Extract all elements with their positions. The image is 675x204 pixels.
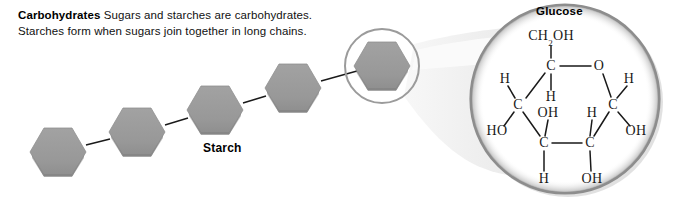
bond-h-cleft <box>508 86 515 98</box>
bond-cleft-cbl <box>523 112 540 136</box>
carbohydrates-figure: CH2OH C O H H H C C OH H HO OH C C H OH … <box>0 0 675 204</box>
bond-cbr-oh <box>590 151 591 171</box>
caption-text: Carbohydrates Sugars and starches are ca… <box>18 8 318 39</box>
bond-h-cright <box>617 86 627 98</box>
bond-h-midright-cbr <box>590 120 592 136</box>
bond-cright-cbr <box>594 112 609 136</box>
glucose-title: Glucose <box>536 5 583 17</box>
bond-o-cright <box>603 74 611 97</box>
caption-lead: Carbohydrates <box>18 9 100 21</box>
bond-oh-center-cbl <box>545 120 548 136</box>
bond-c-cleft <box>526 73 545 98</box>
starch-label: Starch <box>203 141 242 155</box>
bond-cleft-ho <box>504 112 514 126</box>
bond-cright-oh <box>618 112 630 126</box>
